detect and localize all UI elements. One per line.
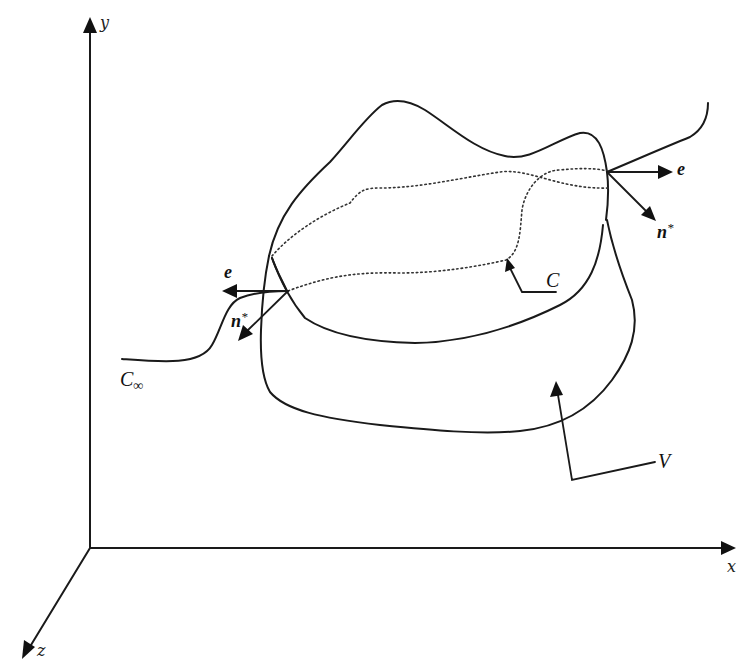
volume-left-junction (272, 258, 287, 291)
contour-c: C (272, 169, 610, 292)
x-axis-arrowhead-icon (721, 541, 736, 555)
normal-left-symbol: n (231, 311, 241, 331)
normal-left-superscript: * (241, 309, 248, 324)
e-vector-right-label: e (677, 159, 685, 179)
contour-label: C (546, 269, 560, 291)
contour-front-path (288, 169, 608, 291)
c-infinity-label: C∞ (120, 368, 143, 393)
normal-right-superscript: * (667, 220, 674, 235)
normal-right-line (607, 172, 646, 211)
diagram-svg: y x z C∞ C (0, 0, 752, 669)
z-axis-line (31, 548, 90, 645)
volume-leader-line (558, 395, 655, 480)
far-field-curve: C∞ (120, 103, 708, 393)
volume-label: V (658, 450, 673, 472)
c-infinity-curve-right (607, 103, 708, 172)
control-volume (261, 101, 635, 432)
c-infinity-main: C (120, 368, 134, 390)
c-infinity-subscript: ∞ (133, 378, 143, 393)
y-axis-arrowhead-icon (83, 17, 97, 33)
volume-top-outline (269, 101, 608, 256)
right-vectors: e n* (607, 159, 685, 242)
x-axis-label: x (727, 557, 736, 576)
e-vector-right-arrowhead-icon (658, 165, 673, 179)
coordinate-axes: y x z (22, 13, 736, 660)
contour-back-upper (272, 172, 610, 256)
z-axis-label: z (36, 641, 46, 660)
normal-right-symbol: n (657, 222, 667, 242)
y-axis-label: y (99, 13, 110, 32)
normal-right-label: n* (657, 220, 674, 242)
volume-leader-arrowhead-icon (550, 381, 563, 397)
e-vector-left-arrowhead-icon (222, 284, 237, 298)
e-vector-left-label: e (224, 262, 232, 282)
diagram-canvas: y x z C∞ C (0, 0, 752, 669)
volume-leader: V (550, 381, 673, 480)
volume-bottom-outline (261, 220, 635, 432)
normal-left-line (248, 291, 288, 330)
